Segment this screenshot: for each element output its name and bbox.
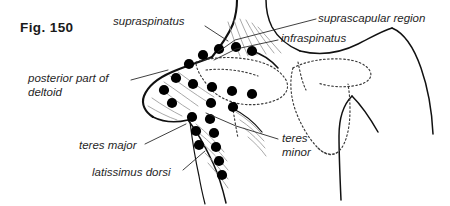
right-arm-inner-contour	[352, 96, 378, 132]
trigger-point-group-deltoid-cluster	[159, 73, 257, 112]
trigger-point-dot	[247, 89, 257, 99]
trigger-point-dot	[211, 142, 221, 152]
figure-caption: Fig. 150	[20, 20, 73, 35]
annotation-label-latissimus-dorsi: latissimus dorsi	[92, 166, 171, 179]
annotation-label-line: minor	[282, 146, 311, 160]
annotation-label-line: teres major	[79, 139, 137, 152]
trigger-point-dot	[205, 114, 215, 124]
leader-line-posterior-part-of-deltoid	[131, 70, 168, 80]
annotation-label-line: latissimus dorsi	[92, 166, 171, 179]
left-shoulder-blade-contour	[143, 57, 212, 117]
annotation-label-line: posterior part of	[28, 72, 109, 86]
trigger-point-dot	[217, 170, 227, 180]
annotation-label-supraspinatus: supraspinatus	[113, 15, 185, 28]
annotation-label-teres-major: teres major	[79, 139, 137, 152]
body-outline-group	[143, 0, 433, 204]
trigger-point-dots	[159, 42, 257, 180]
annotation-label-line: suprascapular region	[318, 12, 425, 25]
trigger-point-dot	[194, 140, 204, 150]
right-scapula-inferior-dotted	[318, 148, 338, 154]
trigger-point-dot	[188, 79, 198, 89]
trigger-point-dot	[247, 46, 257, 56]
deltoid-fiber-6	[148, 106, 177, 120]
trigger-point-dot	[214, 156, 224, 166]
trigger-point-dot	[191, 126, 201, 136]
teres-fiber-1	[236, 112, 262, 134]
trigger-point-dot	[184, 59, 194, 69]
annotation-label-line: teres	[282, 132, 311, 146]
deltoid-fiber-5	[152, 98, 182, 116]
right-arm-outer-contour	[392, 28, 433, 134]
annotation-label-teres-minor: teresminor	[282, 132, 311, 159]
trigger-point-dot	[171, 73, 181, 83]
annotation-label-line: infraspinatus	[281, 32, 346, 45]
trigger-point-dot	[198, 50, 208, 60]
trigger-point-dot	[227, 86, 237, 96]
annotation-label-line: supraspinatus	[113, 15, 185, 28]
trigger-point-dot	[206, 98, 216, 108]
trigger-point-group-supraspinatus-row	[184, 42, 257, 69]
annotation-label-posterior-part-of-deltoid: posterior part ofdeltoid	[28, 72, 109, 99]
trigger-point-dot	[187, 112, 197, 122]
annotation-label-line: deltoid	[28, 86, 109, 100]
figure-150-container: Fig. 150 supraspinatussuprascapular regi…	[0, 0, 450, 206]
trigger-point-dot	[159, 85, 169, 95]
trigger-point-dot	[167, 98, 177, 108]
annotation-label-infraspinatus: infraspinatus	[281, 32, 346, 45]
leader-line-teres-major	[145, 124, 186, 144]
right-scapula-medial-dotted	[298, 62, 306, 90]
trigger-point-dot	[209, 128, 219, 138]
trigger-point-dot	[207, 82, 217, 92]
left-scapula-spine-dotted	[206, 69, 258, 76]
leader-line-latissimus-dorsi	[183, 151, 205, 170]
right-scapula-spine-dotted	[293, 59, 371, 87]
leader-line-supraspinatus	[205, 26, 228, 41]
trigger-point-dot	[228, 102, 238, 112]
annotation-label-suprascapular-region: suprascapular region	[318, 12, 425, 25]
